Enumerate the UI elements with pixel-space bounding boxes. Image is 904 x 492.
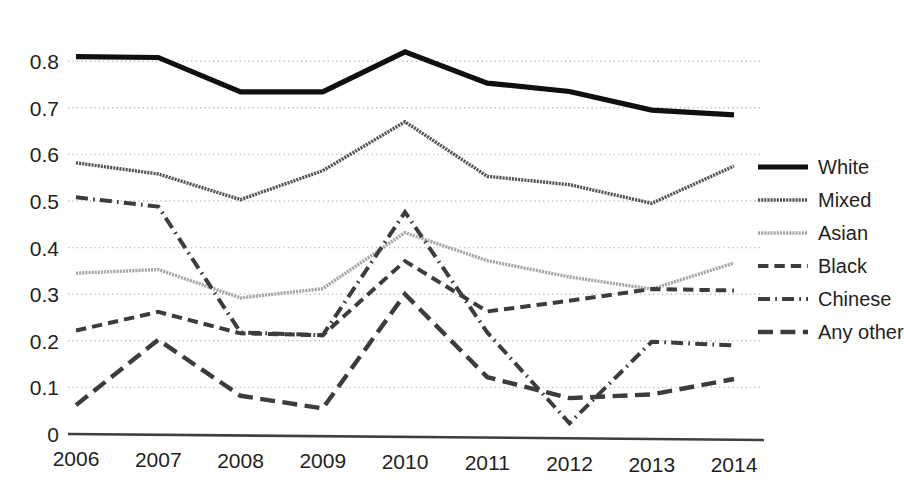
legend-swatch-white — [757, 160, 809, 174]
legend-swatch-asian — [757, 226, 809, 240]
legend-item-chinese: Chinese — [757, 282, 899, 315]
legend-label-black: Black — [818, 256, 867, 276]
legend-swatch-any-other — [757, 325, 809, 339]
series-line-mixed — [76, 122, 734, 204]
chart-legend: White Mixed Asian Black Chinese Any othe… — [757, 150, 899, 348]
x-axis-tick: 2008 — [217, 449, 264, 472]
legend-swatch-black — [757, 259, 809, 273]
legend-label-white: White — [818, 157, 869, 177]
x-axis-tick: 2013 — [628, 453, 675, 476]
x-axis-tick: 2014 — [711, 453, 758, 476]
legend-item-black: Black — [757, 249, 899, 282]
y-axis-tick: 0.1 — [30, 376, 59, 399]
x-axis-tick: 2009 — [299, 449, 346, 472]
y-axis-tick: 0 — [47, 423, 59, 446]
x-axis-tick: 2012 — [546, 452, 593, 475]
legend-swatch-chinese — [757, 292, 809, 306]
legend-label-any-other: Any other — [818, 322, 904, 342]
x-axis-tick: 2011 — [465, 451, 510, 474]
legend-label-chinese: Chinese — [818, 289, 891, 309]
y-axis-tick: 0.7 — [30, 97, 59, 120]
series-line-any-other — [76, 294, 734, 408]
legend-swatch-mixed — [757, 193, 809, 207]
y-axis-tick: 0.3 — [30, 283, 59, 306]
legend-item-mixed: Mixed — [757, 183, 899, 216]
y-axis-tick: 0.6 — [30, 143, 59, 166]
y-axis-tick: 0.2 — [30, 330, 59, 353]
legend-label-asian: Asian — [818, 223, 868, 243]
y-axis-tick: 0.8 — [30, 50, 59, 73]
legend-label-mixed: Mixed — [818, 190, 871, 210]
series-line-asian — [76, 233, 734, 298]
y-axis-tick: 0.4 — [30, 237, 60, 260]
series-line-black — [76, 261, 734, 335]
legend-item-asian: Asian — [757, 216, 899, 249]
y-axis-tick: 0.5 — [30, 190, 59, 213]
x-axis-tick: 2010 — [382, 450, 429, 473]
x-axis-tick: 2007 — [135, 448, 182, 471]
x-axis-tick: 2006 — [53, 447, 100, 470]
legend-item-any-other: Any other — [757, 315, 899, 348]
legend-item-white: White — [757, 150, 899, 183]
